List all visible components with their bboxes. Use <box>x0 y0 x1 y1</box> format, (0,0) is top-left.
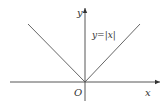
origin-label: O <box>74 87 82 98</box>
function-label: y=|x| <box>91 30 116 41</box>
left-branch-line <box>28 24 85 82</box>
graph: y y=|x| O x <box>0 0 167 111</box>
y-axis-label: y <box>76 7 83 18</box>
x-axis-label: x <box>145 87 151 98</box>
